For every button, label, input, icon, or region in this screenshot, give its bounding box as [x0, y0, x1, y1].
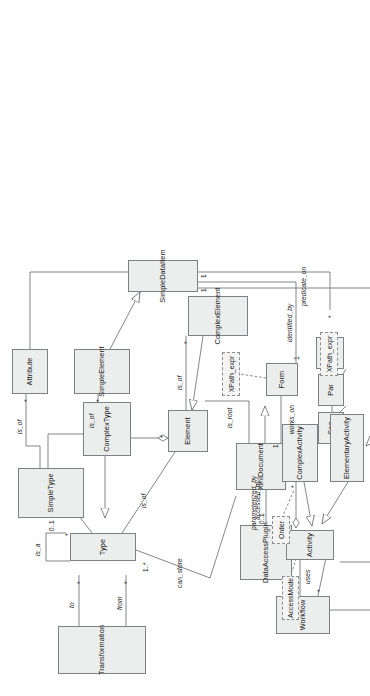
note-label: Order — [278, 521, 285, 539]
label-is-of-type: is_of — [140, 494, 147, 508]
svg-text:*: * — [183, 341, 190, 344]
class-simpleelement[interactable]: SimpleElement — [74, 349, 130, 394]
class-par[interactable]: Par — [318, 374, 344, 406]
class-label: ComplexElement — [214, 288, 222, 345]
class-element[interactable]: Element — [168, 410, 208, 452]
svg-text:*: * — [76, 581, 83, 584]
label-works-on: works_on — [288, 405, 295, 434]
class-simpletype[interactable]: SimpleType — [18, 468, 84, 518]
label-uses: uses — [304, 570, 311, 584]
svg-text:*: * — [327, 315, 334, 318]
class-label: ComplexActivity — [296, 426, 304, 479]
class-attribute[interactable]: Attribute — [12, 349, 48, 394]
class-label: ComplexType — [103, 406, 111, 452]
class-activity[interactable]: Activity — [286, 530, 334, 560]
svg-text:*: * — [290, 485, 297, 488]
note-label: XPath_expr — [326, 336, 333, 373]
svg-text:*: * — [316, 589, 323, 592]
diagram-stage: ** * ** * * * * * 1 * * * * * * * * — [0, 0, 370, 696]
class-label: ElementaryActivity — [343, 417, 351, 479]
class-label: SimpleDataItem — [159, 249, 167, 302]
label-is-of-simpleelement: is_of — [88, 414, 95, 428]
class-label: SimpleType — [47, 473, 55, 512]
note-xpath-expr-2[interactable]: XPath_expr — [320, 332, 338, 376]
svg-text:*: * — [23, 399, 30, 402]
note-xpath-expr-1[interactable]: XPath_expr — [222, 352, 240, 396]
note-order[interactable]: Order — [272, 516, 290, 544]
class-simpledataitem[interactable]: SimpleDataItem — [128, 260, 198, 292]
mult-sdi-pred-1: 1 — [200, 274, 207, 278]
label-can-store: can_store — [176, 558, 183, 588]
note-label: AccessMode — [287, 578, 294, 618]
mult-sdi-ident-1: 1 — [200, 288, 207, 292]
connector-layer: ** * ** * * * * * 1 * * * * * * * * — [0, 0, 370, 696]
note-label: XPath_expr — [228, 356, 235, 393]
class-label: Workflow — [299, 600, 307, 631]
class-label: Type — [99, 539, 107, 555]
class-label: Par — [327, 384, 335, 396]
svg-text:*: * — [159, 435, 166, 438]
class-label: Activity — [306, 533, 314, 557]
label-identified-by: identified_by — [286, 304, 293, 342]
label-predicate-on: predicate_on — [300, 267, 307, 306]
svg-text:1: 1 — [293, 356, 300, 360]
class-complextype[interactable]: ComplexType — [83, 402, 131, 456]
label-to: to — [68, 602, 75, 608]
class-complexelement[interactable]: ComplexElement — [188, 296, 248, 336]
class-transformation[interactable]: Transformation — [58, 626, 146, 674]
svg-text:*: * — [123, 581, 130, 584]
class-xmldocument[interactable]: XmlDocument — [236, 443, 286, 490]
class-elementaryactivity[interactable]: ElementaryActivity — [330, 414, 364, 482]
class-label: Form — [278, 371, 286, 388]
mult-xmldoc-1: 1 — [272, 444, 279, 448]
class-label: Transformation — [98, 625, 106, 675]
class-label: SimpleElement — [98, 346, 106, 396]
label-parameterized-by: parameterized_by — [250, 476, 257, 530]
class-form[interactable]: Form — [266, 363, 298, 396]
class-label: DataAccessPlugin — [262, 522, 270, 583]
diagram-page: ** * ** * * * * * 1 * * * * * * * * — [0, 0, 370, 696]
label-is-of-attribute: is_of — [16, 420, 23, 434]
label-is-of-element: is_of — [176, 376, 183, 390]
class-label: Element — [184, 417, 192, 444]
label-is-root: is_root — [226, 408, 233, 429]
note-accessmode[interactable]: AccessMode — [282, 576, 299, 620]
label-from: from — [116, 596, 123, 610]
label-is-a: is_a — [34, 544, 41, 557]
mult-type-1star: 1..* — [142, 563, 149, 572]
uml-canvas: ** * ** * * * * * 1 * * * * * * * * — [0, 0, 370, 696]
class-type[interactable]: Type — [70, 533, 136, 561]
class-label: Attribute — [26, 357, 34, 385]
mult-plugin-0-1: 0..1 — [258, 513, 265, 524]
mult-is-a-0-1: 0..1 — [48, 520, 55, 531]
